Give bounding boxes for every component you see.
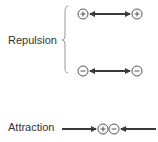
minus-charge-icon: [78, 66, 88, 76]
repulsion-negative-pair: [78, 66, 142, 76]
minus-charge-icon: [132, 66, 142, 76]
minus-charge-icon: [109, 124, 119, 134]
repulsion-positive-pair: [78, 9, 142, 19]
plus-charge-icon: [132, 9, 142, 19]
charge-diagram: [0, 0, 158, 142]
plus-charge-icon: [98, 124, 108, 134]
plus-charge-icon: [78, 9, 88, 19]
attraction-pair: [62, 124, 156, 134]
brace: [62, 6, 68, 73]
